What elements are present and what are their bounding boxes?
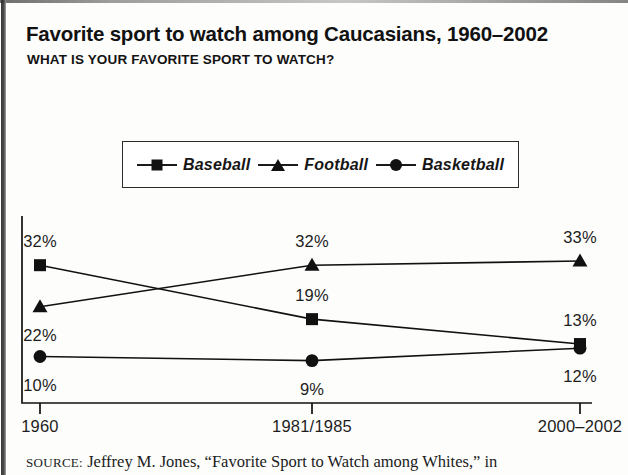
legend-label-football: Football [304, 156, 368, 174]
x-axis-tick-label-1: 1981/1985 [272, 417, 352, 436]
x-axis-tick-label-2: 2000–2002 [538, 417, 622, 436]
scan-edge-top [0, 0, 628, 3]
value-label-basketball-1: 9% [300, 380, 324, 399]
legend-label-basketball: Basketball [422, 156, 504, 174]
figure-page: Favorite sport to watch among Caucasians… [0, 0, 628, 475]
circle-data-point [306, 354, 319, 367]
legend-row: Baseball Football Basketball [123, 142, 518, 187]
x-axis-tick-label-0: 1960 [21, 417, 59, 436]
triangle-data-point [33, 299, 48, 312]
value-label-baseball-2: 13% [563, 311, 597, 330]
legend-item-basketball[interactable]: Basketball [376, 156, 504, 174]
value-label-basketball-2: 12% [563, 367, 597, 386]
scan-edge-left [1, 0, 6, 475]
value-label-baseball-0: 32% [23, 232, 57, 251]
value-label-baseball-1: 19% [295, 286, 329, 305]
value-label-football-1: 32% [295, 232, 329, 251]
source-note: SOURCE: Jeffrey M. Jones, “Favorite Spor… [26, 452, 497, 472]
triangle-data-point [305, 258, 320, 271]
circle-data-point [34, 350, 47, 363]
legend-label-baseball: Baseball [183, 156, 250, 174]
source-text: Jeffrey M. Jones, “Favorite Sport to Wat… [83, 452, 497, 471]
source-prefix: SOURCE: [26, 455, 83, 470]
square-data-point [34, 259, 46, 271]
square-data-point [306, 313, 318, 325]
chart-legend: Baseball Football Basketball [122, 141, 519, 188]
page-title: Favorite sport to watch among Caucasians… [26, 22, 548, 46]
legend-item-football[interactable]: Football [258, 156, 368, 174]
page-subtitle: WHAT IS YOUR FAVORITE SPORT TO WATCH? [27, 52, 334, 67]
value-label-basketball-0: 10% [23, 376, 57, 395]
square-marker-icon [137, 157, 177, 173]
value-label-football-2: 33% [563, 228, 597, 247]
circle-data-point [574, 342, 587, 355]
circle-marker-icon [376, 157, 416, 173]
square-data-point [574, 338, 586, 350]
value-label-football-0: 22% [23, 326, 57, 345]
legend-item-baseball[interactable]: Baseball [137, 156, 250, 174]
triangle-marker-icon [258, 157, 298, 173]
triangle-data-point [573, 254, 588, 267]
